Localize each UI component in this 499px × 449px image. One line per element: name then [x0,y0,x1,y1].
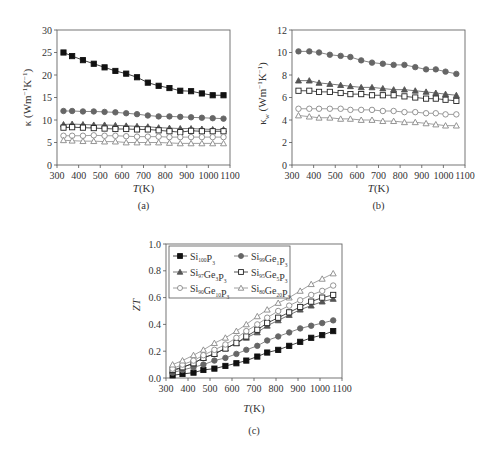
open-square-marker-icon [199,129,204,134]
y-tick-label: 0.4 [149,319,162,330]
filled-square-marker-icon [178,88,183,93]
open-square-marker-icon [188,128,193,133]
y-tick-label: 2 [282,137,287,148]
open-triangle-marker-icon [222,335,228,340]
filled-circle-marker-icon [201,362,206,367]
filled-circle-marker-icon [178,114,183,119]
filled-square-marker-icon [221,93,226,98]
x-tick-label: 500 [93,170,108,181]
filled-circle-marker-icon [61,108,66,113]
filled-circle-marker-icon [423,67,428,72]
filled-circle-marker-icon [113,110,118,115]
filled-square-marker-icon [167,85,172,90]
filled-square-marker-icon [320,333,325,338]
open-triangle-marker-icon [180,358,186,363]
open-square-marker-icon [413,95,418,100]
open-square-marker-icon [276,315,281,320]
open-square-marker-icon [316,89,321,94]
open-circle-marker-icon [391,108,396,113]
open-circle-marker-icon [308,292,313,297]
open-square-marker-icon [454,98,459,103]
open-circle-marker-icon [123,133,128,138]
filled-square-marker-icon [124,71,129,76]
y-axis-label: κ (Wm−1K−1) [21,68,34,126]
x-tick-label: 900 [291,383,306,394]
x-tick-label: 500 [328,170,343,181]
filled-square-marker-icon [191,370,196,375]
x-tick-label: 900 [414,170,429,181]
svg-text:ZT: ZT [130,298,142,311]
open-circle-marker-icon [255,322,260,327]
series-Si99Ge1P3 [296,49,459,77]
y-tick-label: 30 [42,25,52,36]
filled-circle-marker-icon [238,253,243,258]
open-square-marker-icon [124,126,129,131]
x-tick-label: 800 [393,170,408,181]
y-axis-label: κw (Wm−1K−1) [256,62,271,125]
y-tick-label: 15 [42,92,52,103]
x-tick-label: 400 [71,170,86,181]
filled-square-marker-icon [156,83,161,88]
y-tick-label: 0.0 [149,373,162,384]
filled-square-marker-icon [331,329,336,334]
open-square-marker-icon [423,96,428,101]
open-triangle-marker-icon [243,321,249,326]
filled-circle-marker-icon [223,355,228,360]
open-circle-marker-icon [191,358,196,363]
open-square-marker-icon [433,96,438,101]
open-circle-marker-icon [234,335,239,340]
open-circle-marker-icon [423,111,428,116]
x-tick-label: 500 [203,383,218,394]
open-circle-marker-icon [177,285,182,290]
open-circle-marker-icon [319,288,324,293]
open-square-marker-icon [145,127,150,132]
filled-square-marker-icon [80,58,85,63]
y-axis-label: ZT [130,298,142,311]
y-tick-label: 5 [47,137,52,148]
filled-square-marker-icon [265,350,270,355]
filled-square-marker-icon [244,358,249,363]
open-circle-marker-icon [369,107,374,112]
open-triangle-marker-icon [233,328,239,333]
open-square-marker-icon [134,127,139,132]
open-square-marker-icon [113,126,118,131]
panel-caption: (c) [248,425,260,437]
filled-circle-marker-icon [199,115,204,120]
filled-square-marker-icon [255,354,260,359]
open-square-marker-icon [61,125,66,130]
y-tick-label: 0.2 [149,346,162,357]
x-tick-label: 900 [179,170,194,181]
open-triangle-marker-icon [211,340,217,345]
open-square-marker-icon [210,129,215,134]
filled-circle-marker-icon [319,320,324,325]
filled-circle-marker-icon [255,343,260,348]
open-triangle-marker-icon [264,307,270,312]
filled-circle-marker-icon [327,52,332,57]
open-square-marker-icon [70,125,75,130]
open-triangle-marker-icon [254,313,260,318]
x-tick-label: 1100 [332,383,352,394]
series-Si99Ge1P3 [61,108,226,121]
open-circle-marker-icon [113,133,118,138]
filled-circle-marker-icon [234,351,239,356]
x-tick-label: 400 [306,170,321,181]
open-circle-marker-icon [380,108,385,113]
open-circle-marker-icon [264,315,269,320]
open-square-marker-icon [327,89,332,94]
filled-square-marker-icon [276,347,281,352]
open-square-marker-icon [320,295,325,300]
x-tick-label: 300 [159,383,174,394]
y-tick-label: 8 [282,70,287,81]
filled-circle-marker-icon [91,109,96,114]
y-tick-label: 1.0 [149,239,162,250]
filled-circle-marker-icon [380,61,385,66]
filled-circle-marker-icon [156,114,161,119]
y-tick-label: 10 [42,115,52,126]
y-tick-label: 20 [42,70,52,81]
filled-square-marker-icon [223,363,228,368]
filled-circle-marker-icon [244,347,249,352]
open-circle-marker-icon [307,106,312,111]
filled-square-marker-icon [234,361,239,366]
x-tick-label: 800 [269,383,284,394]
y-tick-label: 6 [282,92,287,103]
